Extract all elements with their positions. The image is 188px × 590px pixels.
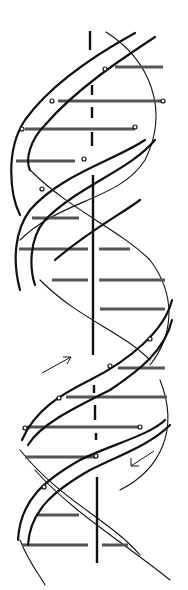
dna-double-helix-diagram: DNA double helix xyxy=(0,0,188,590)
central-vertical-axis xyxy=(90,31,97,563)
strand-direction-arrow-down xyxy=(131,451,154,466)
strand-direction-arrow-up xyxy=(42,357,71,373)
helix-drawing xyxy=(0,0,188,590)
